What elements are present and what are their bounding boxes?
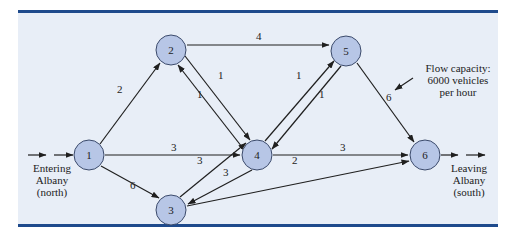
cap-1-2: 2 xyxy=(117,83,123,95)
svg-text:Albany: Albany xyxy=(36,174,69,186)
cap-4-5: 1 xyxy=(296,69,302,81)
svg-text:6: 6 xyxy=(422,149,428,161)
node-1: 1 xyxy=(74,140,104,170)
cap-3-4: 3 xyxy=(197,154,203,166)
svg-text:(south): (south) xyxy=(453,186,485,199)
exit-label: Leaving Albany (south) xyxy=(451,162,488,199)
node-6: 6 xyxy=(410,140,440,170)
svg-text:Albany: Albany xyxy=(453,174,486,186)
svg-text:per hour: per hour xyxy=(440,86,477,98)
svg-text:Flow capacity:: Flow capacity: xyxy=(425,62,490,74)
edge-4-2 xyxy=(178,65,242,147)
svg-text:5: 5 xyxy=(343,45,349,57)
edge-1-2 xyxy=(100,63,160,144)
svg-text:2: 2 xyxy=(168,44,174,56)
svg-text:Entering: Entering xyxy=(33,162,71,174)
cap-5-6: 6 xyxy=(386,91,392,103)
node-4: 4 xyxy=(242,140,272,170)
edge-3-4 xyxy=(180,143,246,197)
cap-2-5: 4 xyxy=(256,30,262,42)
edge-3-6 xyxy=(187,161,409,206)
cap-4-2: 1 xyxy=(197,88,203,100)
svg-text:1: 1 xyxy=(86,149,92,161)
svg-text:4: 4 xyxy=(254,149,260,161)
node-2: 2 xyxy=(156,35,186,65)
svg-text:6000 vehicles: 6000 vehicles xyxy=(428,74,489,86)
edge-5-4 xyxy=(272,66,341,149)
annotation-pointer xyxy=(395,78,413,90)
svg-text:Leaving: Leaving xyxy=(451,162,488,174)
node-5: 5 xyxy=(331,36,361,66)
svg-text:(north): (north) xyxy=(37,186,68,199)
cap-1-4: 3 xyxy=(171,141,177,153)
cap-4-6: 3 xyxy=(340,141,346,153)
svg-text:3: 3 xyxy=(168,204,174,216)
node-3: 3 xyxy=(156,195,186,225)
cap-5-4: 1 xyxy=(319,88,325,100)
cap-3-6: 2 xyxy=(292,154,298,166)
capacity-annotation: Flow capacity: 6000 vehicles per hour xyxy=(425,62,490,98)
cap-1-3: 6 xyxy=(130,179,136,191)
cap-4-3: 3 xyxy=(223,166,229,178)
entry-label: Entering Albany (north) xyxy=(33,162,71,199)
cap-2-4: 1 xyxy=(218,69,224,81)
network-diagram: 2 3 6 4 1 1 3 3 1 1 3 6 2 1 2 3 4 5 6 En… xyxy=(0,0,519,241)
edges xyxy=(100,45,414,206)
